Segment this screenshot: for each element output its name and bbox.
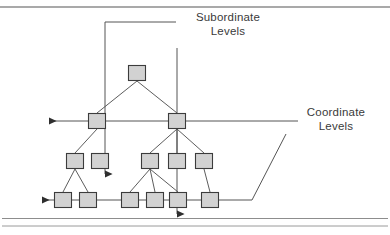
node-level3-e	[196, 154, 213, 169]
node-level3-c	[142, 154, 159, 169]
edge-l3a-to-b1	[63, 169, 75, 192]
edge-right-to-c1	[150, 129, 177, 153]
node-level3-a	[67, 154, 84, 169]
node-level3-d	[169, 154, 186, 169]
node-level4-b	[80, 193, 97, 208]
subordinate-label-line1: Subordinate	[196, 11, 260, 23]
hierarchy-diagram-figure: Subordinate Levels Coordinate Levels	[0, 0, 390, 235]
subordinate-annotation-lines	[105, 22, 177, 214]
node-level2-left	[89, 114, 106, 129]
edge-right-to-c3	[177, 129, 204, 153]
edge-l3c-to-b3	[130, 169, 150, 192]
node-level4-d	[147, 193, 164, 208]
node-level4-c	[122, 193, 139, 208]
edge-root-to-left	[97, 81, 137, 113]
node-level2-right	[169, 114, 186, 129]
subordinate-label-line2: Levels	[180, 24, 276, 38]
tree-nodes	[55, 66, 219, 208]
node-level4-f	[202, 193, 219, 208]
coordinate-levels-label: Coordinate Levels	[288, 105, 384, 133]
edge-l3a-to-b2	[75, 169, 88, 192]
coordinate-label-line2: Levels	[288, 119, 384, 133]
edge-l3e-to-b6	[204, 169, 210, 192]
node-level4-e	[170, 193, 187, 208]
node-root	[129, 66, 146, 81]
edge-root-to-right	[137, 81, 177, 113]
node-level3-b	[92, 154, 109, 169]
tree-edges	[63, 81, 210, 192]
edge-left-to-c1	[75, 129, 97, 153]
subordinate-levels-label: Subordinate Levels	[180, 10, 276, 38]
coordinate-label-line1: Coordinate	[307, 106, 365, 118]
node-level4-a	[55, 193, 72, 208]
